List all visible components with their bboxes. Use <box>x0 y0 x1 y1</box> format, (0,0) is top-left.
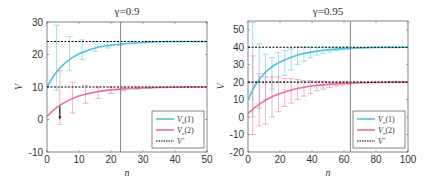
y-tick-label: 30 <box>32 17 44 28</box>
legend-label: Vn(1) <box>378 115 395 125</box>
chart-svg-gamma-095: γ=0.95020406080100-20-1001020304050nVVn(… <box>215 0 430 184</box>
y-tick-label: 10 <box>32 82 44 93</box>
y-tick-label: -10 <box>230 129 245 140</box>
chart-title: γ=0.9 <box>114 5 140 17</box>
x-tick-label: 100 <box>400 154 417 165</box>
y-tick-label: 0 <box>238 112 244 123</box>
y-axis-label: V <box>13 82 24 90</box>
x-tick-label: 40 <box>169 154 181 165</box>
chart-panel-gamma-095: γ=0.95020406080100-20-1001020304050nVVn(… <box>215 0 430 184</box>
y-tick-label: 30 <box>233 59 245 70</box>
plot-area: γ=0.901020304050-100102030nVVn(1)Vn(2)V* <box>13 5 213 178</box>
x-tick-label: 80 <box>370 154 382 165</box>
y-tick-label: -20 <box>230 147 245 158</box>
legend-label: Vn(2) <box>378 126 395 136</box>
x-tick-label: 60 <box>338 154 350 165</box>
series-layer <box>47 25 207 124</box>
x-tick-label: 0 <box>44 154 50 165</box>
legend: Vn(1)Vn(2)V* <box>353 111 405 148</box>
legend-label: Vn(2) <box>177 126 194 136</box>
y-tick-label: 20 <box>32 49 44 60</box>
y-axis-label: V <box>215 82 226 90</box>
y-tick-label: 20 <box>233 77 245 88</box>
chart-panel-gamma-09: γ=0.901020304050-100102030nVVn(1)Vn(2)V* <box>0 0 215 184</box>
chart-title: γ=0.95 <box>312 5 344 17</box>
legend-label: Vn(1) <box>177 115 194 125</box>
x-tick-label: 40 <box>306 154 318 165</box>
x-tick-label: 20 <box>105 154 117 165</box>
y-tick-label: 10 <box>233 94 245 105</box>
x-axis-label: n <box>326 167 331 178</box>
chart-svg-gamma-09: γ=0.901020304050-100102030nVVn(1)Vn(2)V* <box>0 0 215 184</box>
y-tick-label: 40 <box>233 42 245 53</box>
x-tick-label: 30 <box>137 154 149 165</box>
x-axis-label: n <box>125 167 130 178</box>
y-tick-label: -10 <box>29 147 44 158</box>
x-tick-label: 20 <box>274 154 286 165</box>
plot-area: γ=0.95020406080100-20-1001020304050nVVn(… <box>215 5 417 178</box>
x-tick-label: 0 <box>245 154 251 165</box>
series-vn1 <box>47 25 207 90</box>
x-tick-label: 10 <box>73 154 85 165</box>
y-tick-label: 50 <box>233 24 245 35</box>
y-tick-label: 0 <box>37 114 43 125</box>
x-tick-label: 50 <box>201 154 213 165</box>
legend: Vn(1)Vn(2)V* <box>152 111 204 148</box>
